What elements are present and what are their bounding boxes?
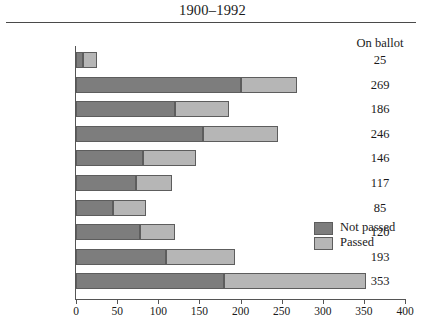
on-ballot-value: 25	[340, 53, 420, 68]
bar-segment-not-passed[interactable]	[76, 224, 140, 240]
bar-segment-passed[interactable]	[143, 150, 196, 166]
on-ballot-value: 186	[340, 102, 420, 117]
x-tick-label: 200	[232, 305, 249, 317]
x-tick-label: 0	[73, 305, 79, 317]
x-tick-mark	[117, 299, 118, 304]
bar-segment-not-passed[interactable]	[76, 77, 241, 93]
x-tick-mark	[282, 299, 283, 304]
x-tick-mark	[405, 299, 406, 304]
chart-figure: 1900–1992 On ballot 05010015020025030035…	[0, 0, 425, 323]
bar-segment-passed[interactable]	[83, 52, 97, 68]
bar-segment-passed[interactable]	[166, 249, 234, 265]
bar-segment-passed[interactable]	[241, 77, 298, 93]
x-tick-label: 300	[314, 305, 331, 317]
on-ballot-value: 246	[340, 127, 420, 142]
bar-segment-passed[interactable]	[136, 175, 172, 191]
x-tick-mark	[158, 299, 159, 304]
title-divider	[6, 22, 416, 23]
chart-header: 1900–1992	[0, 0, 425, 26]
on-ballot-value: 120	[340, 225, 420, 240]
bar-segment-passed[interactable]	[140, 224, 175, 240]
x-tick-label: 50	[111, 305, 123, 317]
legend-swatch-not-passed	[314, 222, 333, 235]
x-tick-label: 250	[273, 305, 290, 317]
bar-segment-not-passed[interactable]	[76, 175, 136, 191]
x-tick-label: 400	[396, 305, 413, 317]
bar-segment-passed[interactable]	[203, 126, 278, 142]
x-tick-label: 350	[355, 305, 372, 317]
on-ballot-value: 146	[340, 151, 420, 166]
x-tick-label: 100	[150, 305, 167, 317]
bar-segment-passed[interactable]	[113, 200, 146, 216]
x-tick-mark	[323, 299, 324, 304]
bar-segment-passed[interactable]	[175, 101, 229, 117]
x-tick-mark	[199, 299, 200, 304]
x-tick-mark	[76, 299, 77, 304]
on-ballot-value: 353	[340, 274, 420, 289]
legend-swatch-passed	[314, 237, 333, 250]
on-ballot-value: 85	[340, 201, 420, 216]
bar-segment-not-passed[interactable]	[76, 200, 113, 216]
bar-segment-not-passed[interactable]	[76, 273, 224, 289]
x-tick-mark	[364, 299, 365, 304]
bar-segment-not-passed[interactable]	[76, 126, 203, 142]
x-tick-label: 150	[191, 305, 208, 317]
on-ballot-value: 117	[340, 176, 420, 191]
chart-title: 1900–1992	[0, 2, 425, 19]
bar-segment-not-passed[interactable]	[76, 101, 175, 117]
on-ballot-value: 269	[340, 78, 420, 93]
bar-segment-not-passed[interactable]	[76, 52, 83, 68]
x-tick-mark	[241, 299, 242, 304]
bar-segment-not-passed[interactable]	[76, 150, 143, 166]
on-ballot-value: 193	[340, 250, 420, 265]
bar-segment-not-passed[interactable]	[76, 249, 166, 265]
